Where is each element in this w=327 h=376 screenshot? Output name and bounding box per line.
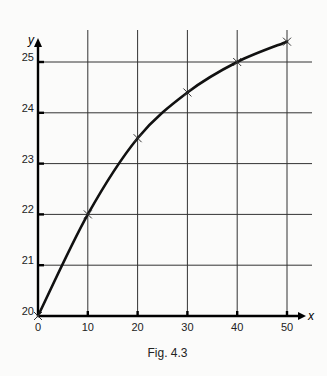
svg-text:0: 0	[35, 321, 41, 333]
data-point-markers	[34, 38, 291, 320]
line-chart: 01020304050202122232425 x y	[0, 0, 327, 376]
figure-caption: Fig. 4.3	[0, 346, 327, 360]
svg-text:40: 40	[231, 321, 243, 333]
svg-text:30: 30	[181, 321, 193, 333]
axes	[34, 38, 306, 320]
grid-lines	[38, 30, 312, 316]
svg-text:24: 24	[22, 102, 34, 114]
x-axis-label: x	[307, 309, 315, 323]
svg-text:10: 10	[82, 321, 94, 333]
tick-labels: 01020304050202122232425	[22, 51, 293, 333]
svg-text:21: 21	[22, 254, 34, 266]
svg-text:20: 20	[22, 305, 34, 317]
svg-text:22: 22	[22, 203, 34, 215]
data-curve	[38, 42, 287, 316]
svg-text:20: 20	[131, 321, 143, 333]
y-axis-label: y	[27, 33, 35, 47]
svg-text:23: 23	[22, 153, 34, 165]
svg-text:50: 50	[281, 321, 293, 333]
caption-text: Fig. 4.3	[147, 346, 187, 360]
svg-text:25: 25	[22, 51, 34, 63]
